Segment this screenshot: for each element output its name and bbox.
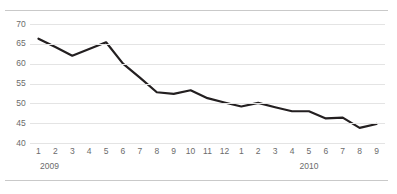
x-tick-label: 5	[104, 147, 109, 156]
x-tick-label: 2	[256, 147, 261, 156]
y-tick-label: 40	[16, 139, 26, 148]
y-tick-label: 55	[16, 79, 26, 88]
plot-area	[30, 24, 385, 143]
y-tick-label: 60	[16, 59, 26, 68]
x-tick-label: 8	[154, 147, 159, 156]
x-axis-group-label: 2009	[40, 162, 59, 171]
x-tick-label: 7	[340, 147, 345, 156]
x-tick-label: 3	[273, 147, 278, 156]
gridline	[30, 103, 385, 104]
x-tick-label: 12	[220, 147, 229, 156]
x-axis: 123456789101112123456789	[30, 147, 385, 161]
gridline	[30, 64, 385, 65]
x-tick-label: 11	[203, 147, 212, 156]
gridline	[30, 123, 385, 124]
gridline	[30, 44, 385, 45]
x-tick-label: 6	[121, 147, 126, 156]
x-tick-label: 4	[290, 147, 295, 156]
y-axis: 40455055606570	[0, 0, 26, 194]
x-tick-label: 4	[87, 147, 92, 156]
x-tick-label: 5	[307, 147, 312, 156]
y-tick-label: 45	[16, 119, 26, 128]
x-tick-label: 9	[374, 147, 379, 156]
line-chart-figure: 40455055606570 123456789101112123456789 …	[0, 0, 397, 194]
y-tick-label: 50	[16, 99, 26, 108]
x-axis-group-labels: 20092010	[30, 162, 385, 176]
x-axis-group-label: 2010	[299, 162, 318, 171]
top-divider-rule	[5, 10, 388, 11]
x-tick-label: 2	[53, 147, 58, 156]
x-tick-label: 1	[36, 147, 41, 156]
x-tick-label: 8	[357, 147, 362, 156]
x-tick-label: 6	[323, 147, 328, 156]
x-tick-label: 10	[186, 147, 195, 156]
x-tick-label: 7	[138, 147, 143, 156]
x-tick-label: 9	[171, 147, 176, 156]
gridline	[30, 84, 385, 85]
gridline	[30, 24, 385, 25]
y-tick-label: 65	[16, 39, 26, 48]
gridline	[30, 143, 385, 144]
bottom-divider-rule	[5, 180, 388, 181]
x-tick-label: 1	[239, 147, 244, 156]
y-tick-label: 70	[16, 20, 26, 29]
x-tick-label: 3	[70, 147, 75, 156]
